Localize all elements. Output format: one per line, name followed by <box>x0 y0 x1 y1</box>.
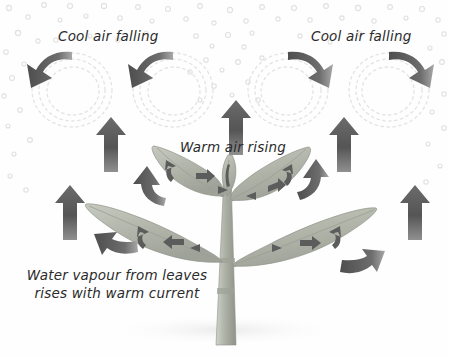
label-water-vapour: Water vapour from leaves rises with warm… <box>22 266 212 302</box>
cool-air-arrow-2 <box>128 52 173 88</box>
diagram-svg <box>0 0 449 356</box>
escape-arrow-lower-right <box>340 249 385 273</box>
cool-air-arrow-3 <box>288 52 333 88</box>
cool-air-arrow-1 <box>27 52 72 88</box>
stem-node-lower <box>217 288 234 294</box>
diagram-canvas: Cool air falling Cool air falling Warm a… <box>0 0 449 356</box>
up-arrow-far-right <box>400 185 430 240</box>
up-arrow-right <box>329 117 359 172</box>
label-warm-air-rising: Warm air rising <box>180 138 286 156</box>
label-cool-air-falling-right: Cool air falling <box>311 27 411 45</box>
stem-node-upper <box>221 258 235 263</box>
label-water-vapour-line1: Water vapour from leaves <box>27 267 207 283</box>
cool-air-arrow-4 <box>389 52 434 88</box>
up-arrow-far-left <box>55 185 85 240</box>
label-cool-air-falling-left: Cool air falling <box>58 27 158 45</box>
cool-air-arrows-layer <box>27 52 434 88</box>
escape-arrow-upper-left <box>133 166 166 206</box>
label-water-vapour-line2: rises with warm current <box>34 285 199 301</box>
up-arrow-left <box>96 117 126 172</box>
